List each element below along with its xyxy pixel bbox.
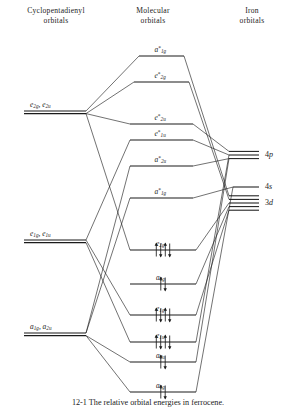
- mo-e2g-star-label: e*2g: [155, 71, 166, 80]
- lig-e2-label: e2g, e2u: [30, 100, 51, 109]
- corr-lig-a1-to-a1g-star: [86, 198, 130, 333]
- mo-a1g-nb-electron-down-head: [164, 288, 167, 291]
- mo-e1u-star-label: e*1u: [155, 129, 166, 138]
- corr-lig-e2-to-e2g-star: [86, 82, 134, 114]
- energy-level-lines-group: [24, 56, 259, 392]
- ao-3d-label: 3d: [265, 198, 273, 207]
- corr-lig-a1-to-a2u-star: [86, 166, 130, 333]
- mo-e1u-label: e1u: [156, 331, 164, 340]
- mo-e1g-label: e1g: [156, 304, 164, 313]
- mo-e1g-electron-down-head: [168, 319, 171, 322]
- lig-e1-label: e1g, e1u: [30, 229, 51, 238]
- mo-a1g-bot-label: a1g: [156, 381, 165, 390]
- mo-a1g-star-top-label: a*1g: [155, 45, 167, 54]
- mo-a1g-nb-label: a1g: [156, 273, 165, 282]
- ao-4p-label: 4p: [265, 150, 273, 159]
- mo-a1g-star-label: a*1g: [155, 187, 167, 196]
- corr-lig-a1-to-a1g-bottom: [86, 336, 130, 392]
- mo-e2g-label: e2g: [156, 239, 164, 248]
- electron-arrows-group: [155, 242, 172, 399]
- corr-4p-to-e1u: [196, 155, 229, 342]
- mo-e2u-star-label: e*2u: [155, 113, 166, 122]
- mo-e1u-electron-down-head: [159, 346, 162, 349]
- mo-a2u-electron-down-head: [164, 366, 167, 369]
- corr-lig-e2-to-e2g: [86, 114, 130, 250]
- mo-e1u-electron-down-head: [168, 346, 171, 349]
- mo-energy-diagram: [0, 0, 296, 409]
- mo-e1g-electron-down-head: [159, 319, 162, 322]
- corr-4p-to-a2u: [196, 159, 229, 362]
- corr-lig-e1-to-e1g: [86, 240, 130, 315]
- mo-e2g-electron-down-head: [168, 254, 171, 257]
- figure-caption: 12-1 The relative orbital energies in fe…: [0, 398, 296, 407]
- corr-lig-a1-to-a2u: [86, 336, 130, 362]
- corr-lig-e2-to-e2u-star: [86, 114, 130, 124]
- corr-lig-e2-to-a1g-star-top: [86, 56, 139, 111]
- corr-lig-e1-to-e1u: [86, 243, 130, 342]
- mo-a2u-star-label: a*2u: [155, 155, 167, 164]
- corr-4s-to-a1g-bottom: [196, 187, 233, 392]
- corr-4p-to-a2u-star: [193, 159, 229, 166]
- ao-4s-label: 4s: [265, 182, 272, 191]
- corr-3d-to-a1g-nonbonding: [196, 207, 229, 284]
- mo-a2u-label: a2u: [156, 351, 165, 360]
- corr-3d-to-a1g-star-top: [184, 56, 229, 196]
- lig-a1-label: a1g, a2u: [30, 322, 51, 331]
- mo-e2g-electron-down-head: [159, 254, 162, 257]
